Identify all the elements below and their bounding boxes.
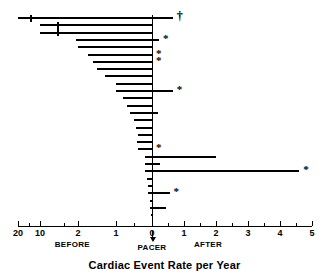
bar-patient-15 [134, 119, 152, 121]
bar-patient-4 [76, 39, 159, 41]
tick-1-before [116, 221, 117, 226]
star-marker-patient-4: * [163, 33, 169, 44]
bar-patient-1 [18, 17, 173, 19]
tick-label-4-after: 4 [277, 228, 282, 238]
x-axis-line [18, 226, 312, 227]
tick-label-3-after: 3 [245, 228, 250, 238]
minor-tick-2 [134, 223, 135, 226]
break-mark-patient-1 [30, 15, 32, 22]
bar-patient-17 [138, 134, 152, 136]
minor-tick-4 [200, 223, 201, 226]
tick-label-10-before: 10 [35, 228, 45, 238]
break-mark-patient-3 [57, 29, 59, 36]
bar-patient-19 [138, 148, 152, 150]
bar-patient-5 [78, 46, 152, 48]
bar-patient-18 [137, 141, 152, 143]
star-marker-patient-22: * [303, 164, 309, 175]
tick-2-after [216, 221, 217, 226]
bar-patient-21 [145, 163, 160, 165]
tick-5-after [312, 221, 313, 226]
bar-patient-7 [93, 61, 152, 63]
group-label-pacer: PACER [138, 243, 167, 252]
break-mark-patient-2 [57, 22, 59, 29]
tick-10-before [40, 221, 41, 226]
minor-tick-7 [296, 223, 297, 226]
group-label-after: AFTER [194, 240, 222, 249]
minor-tick-5 [232, 223, 233, 226]
bar-patient-8 [97, 68, 152, 70]
bar-patient-28 [151, 214, 152, 216]
plot-area: †******* [0, 0, 329, 226]
bar-patient-6 [88, 54, 153, 56]
star-marker-patient-11: * [177, 84, 183, 95]
figure-container: †******* 201021012345 BEFOREPACERAFTER C… [0, 0, 329, 276]
bar-patient-14 [130, 112, 157, 114]
tick-label-2-before: 2 [75, 228, 80, 238]
tick-0-after [152, 221, 153, 226]
bar-patient-27 [150, 207, 167, 209]
tick-label-5-after: 5 [309, 228, 314, 238]
figure-caption: Cardiac Event Rate per Year [0, 259, 329, 271]
minor-tick-6 [264, 223, 265, 226]
tick-label-20-before: 20 [13, 228, 23, 238]
pacer-arrow-icon [150, 237, 156, 242]
tick-label-1-after: 1 [181, 228, 186, 238]
bar-patient-20 [145, 156, 216, 158]
star-marker-patient-19: * [156, 142, 162, 153]
tick-3-after [248, 221, 249, 226]
tick-label-2-after: 2 [213, 228, 218, 238]
tick-2-before [78, 221, 79, 226]
bar-patient-9 [105, 75, 152, 77]
tick-20-before [18, 221, 19, 226]
zero-baseline-axis [152, 15, 153, 226]
tick-1-after [184, 221, 185, 226]
bar-patient-24 [148, 185, 152, 187]
tick-label-1-before: 1 [113, 228, 118, 238]
minor-tick-1 [64, 223, 65, 226]
bar-patient-22 [145, 170, 299, 172]
bar-patient-16 [136, 127, 152, 129]
dagger-marker-patient-1: † [177, 10, 183, 22]
star-marker-patient-25: * [174, 186, 180, 197]
star-marker-patient-7: * [156, 55, 162, 66]
bar-patient-25 [148, 192, 169, 194]
bar-patient-13 [127, 105, 152, 107]
bar-patient-10 [116, 83, 152, 85]
minor-tick-0 [29, 223, 30, 226]
bar-patient-11 [116, 90, 173, 92]
bar-patient-26 [150, 200, 152, 202]
bar-patient-12 [123, 97, 152, 99]
tick-4-after [280, 221, 281, 226]
bar-patient-23 [147, 178, 152, 180]
minor-tick-3 [168, 223, 169, 226]
group-label-before: BEFORE [55, 240, 90, 249]
